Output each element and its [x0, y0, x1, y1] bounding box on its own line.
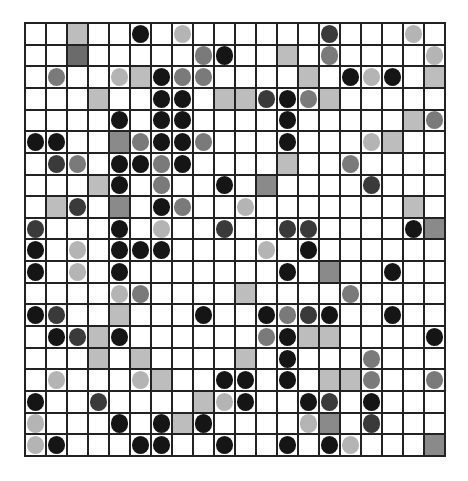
- board-cell-r11-c6[interactable]: [152, 262, 171, 282]
- board-cell-r14-c7[interactable]: [173, 327, 192, 347]
- board-cell-r0-c15[interactable]: [341, 24, 360, 44]
- board-cell-r0-c11[interactable]: [257, 24, 276, 44]
- board-cell-r10-c10[interactable]: [236, 240, 255, 260]
- board-cell-r11-c12[interactable]: [278, 262, 297, 282]
- board-cell-r4-c7[interactable]: [173, 111, 192, 131]
- board-cell-r6-c5[interactable]: [131, 154, 150, 174]
- board-cell-r2-c19-light-gray-square[interactable]: [425, 67, 444, 87]
- board-cell-r11-c18[interactable]: [404, 262, 423, 282]
- board-cell-r15-c2[interactable]: [68, 349, 87, 369]
- board-cell-r14-c13-light-gray-square[interactable]: [299, 327, 318, 347]
- board-cell-r16-c17[interactable]: [383, 370, 402, 390]
- board-cell-r19-c16[interactable]: [362, 435, 381, 455]
- board-cell-r7-c0[interactable]: [26, 176, 45, 196]
- board-cell-r9-c1[interactable]: [47, 219, 66, 239]
- board-cell-r1-c13[interactable]: [299, 46, 318, 66]
- board-cell-r19-c13[interactable]: [299, 435, 318, 455]
- board-cell-r8-c9[interactable]: [215, 197, 234, 217]
- board-cell-r7-c8[interactable]: [194, 176, 213, 196]
- board-cell-r13-c4-light-gray-square[interactable]: [110, 305, 129, 325]
- board-cell-r11-c13[interactable]: [299, 262, 318, 282]
- board-cell-r1-c5[interactable]: [131, 46, 150, 66]
- board-cell-r3-c15[interactable]: [341, 89, 360, 109]
- board-cell-r5-c7[interactable]: [173, 132, 192, 152]
- board-cell-r9-c11[interactable]: [257, 219, 276, 239]
- board-cell-r6-c6[interactable]: [152, 154, 171, 174]
- board-cell-r10-c6[interactable]: [152, 240, 171, 260]
- board-cell-r4-c17[interactable]: [383, 111, 402, 131]
- board-cell-r16-c13[interactable]: [299, 370, 318, 390]
- board-cell-r17-c15[interactable]: [341, 392, 360, 412]
- board-cell-r8-c8[interactable]: [194, 197, 213, 217]
- board-cell-r14-c16[interactable]: [362, 327, 381, 347]
- board-cell-r4-c0[interactable]: [26, 111, 45, 131]
- board-cell-r18-c19[interactable]: [425, 414, 444, 434]
- board-cell-r6-c9[interactable]: [215, 154, 234, 174]
- board-cell-r19-c5[interactable]: [131, 435, 150, 455]
- board-cell-r3-c14-light-gray-square[interactable]: [320, 89, 339, 109]
- board-cell-r7-c13[interactable]: [299, 176, 318, 196]
- board-cell-r11-c17[interactable]: [383, 262, 402, 282]
- board-cell-r15-c14[interactable]: [320, 349, 339, 369]
- board-cell-r5-c18[interactable]: [404, 132, 423, 152]
- board-cell-r12-c2[interactable]: [68, 284, 87, 304]
- board-cell-r0-c0[interactable]: [26, 24, 45, 44]
- board-cell-r3-c11[interactable]: [257, 89, 276, 109]
- board-cell-r14-c5[interactable]: [131, 327, 150, 347]
- board-cell-r2-c8[interactable]: [194, 67, 213, 87]
- board-cell-r11-c16[interactable]: [362, 262, 381, 282]
- board-cell-r5-c19[interactable]: [425, 132, 444, 152]
- board-cell-r16-c7[interactable]: [173, 370, 192, 390]
- board-cell-r9-c13[interactable]: [299, 219, 318, 239]
- board-cell-r10-c8[interactable]: [194, 240, 213, 260]
- board-cell-r12-c1[interactable]: [47, 284, 66, 304]
- board-cell-r7-c10[interactable]: [236, 176, 255, 196]
- board-cell-r1-c3[interactable]: [89, 46, 108, 66]
- board-cell-r8-c0[interactable]: [26, 197, 45, 217]
- board-cell-r1-c2-dark-gray-square[interactable]: [68, 46, 87, 66]
- board-cell-r13-c1[interactable]: [47, 305, 66, 325]
- board-cell-r1-c4[interactable]: [110, 46, 129, 66]
- board-cell-r17-c3[interactable]: [89, 392, 108, 412]
- board-cell-r15-c9[interactable]: [215, 349, 234, 369]
- board-cell-r14-c10[interactable]: [236, 327, 255, 347]
- board-cell-r19-c6[interactable]: [152, 435, 171, 455]
- board-cell-r17-c11[interactable]: [257, 392, 276, 412]
- board-cell-r3-c0[interactable]: [26, 89, 45, 109]
- board-cell-r17-c7[interactable]: [173, 392, 192, 412]
- board-cell-r1-c8[interactable]: [194, 46, 213, 66]
- board-cell-r17-c10[interactable]: [236, 392, 255, 412]
- board-cell-r7-c4[interactable]: [110, 176, 129, 196]
- board-cell-r5-c4-mid-gray-square[interactable]: [110, 132, 129, 152]
- board-cell-r11-c15[interactable]: [341, 262, 360, 282]
- board-cell-r0-c16[interactable]: [362, 24, 381, 44]
- board-cell-r13-c12[interactable]: [278, 305, 297, 325]
- board-cell-r7-c19[interactable]: [425, 176, 444, 196]
- board-cell-r16-c1[interactable]: [47, 370, 66, 390]
- board-cell-r5-c2[interactable]: [68, 132, 87, 152]
- board-cell-r3-c8[interactable]: [194, 89, 213, 109]
- board-cell-r9-c18[interactable]: [404, 219, 423, 239]
- board-cell-r7-c17[interactable]: [383, 176, 402, 196]
- board-cell-r18-c3[interactable]: [89, 414, 108, 434]
- board-cell-r18-c8[interactable]: [194, 414, 213, 434]
- board-cell-r0-c10[interactable]: [236, 24, 255, 44]
- board-cell-r17-c16[interactable]: [362, 392, 381, 412]
- board-cell-r11-c11[interactable]: [257, 262, 276, 282]
- board-cell-r0-c17[interactable]: [383, 24, 402, 44]
- board-cell-r5-c1[interactable]: [47, 132, 66, 152]
- board-cell-r13-c5[interactable]: [131, 305, 150, 325]
- board-cell-r9-c7[interactable]: [173, 219, 192, 239]
- board-cell-r6-c12-light-gray-square[interactable]: [278, 154, 297, 174]
- board-cell-r11-c3[interactable]: [89, 262, 108, 282]
- board-cell-r12-c12[interactable]: [278, 284, 297, 304]
- board-cell-r1-c9[interactable]: [215, 46, 234, 66]
- board-cell-r1-c11[interactable]: [257, 46, 276, 66]
- board-cell-r15-c8[interactable]: [194, 349, 213, 369]
- board-cell-r12-c3[interactable]: [89, 284, 108, 304]
- board-cell-r19-c7[interactable]: [173, 435, 192, 455]
- board-cell-r18-c6[interactable]: [152, 414, 171, 434]
- board-cell-r12-c8[interactable]: [194, 284, 213, 304]
- board-cell-r17-c17[interactable]: [383, 392, 402, 412]
- board-cell-r6-c15[interactable]: [341, 154, 360, 174]
